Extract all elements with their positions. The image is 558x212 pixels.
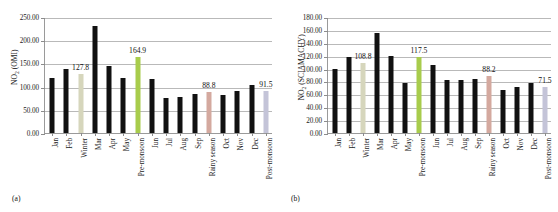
bar-group[interactable]: 88.8Rainy season [202, 18, 216, 133]
bar[interactable] [50, 78, 55, 133]
bar-group[interactable]: May [116, 18, 130, 133]
bar-group[interactable]: Oct [496, 18, 510, 133]
x-axis-tick [266, 133, 267, 136]
bar[interactable] [431, 65, 436, 133]
bar[interactable] [92, 26, 97, 133]
bar[interactable] [121, 78, 126, 133]
y-axis-tick-label: 150.00 [20, 60, 39, 68]
bar-group[interactable]: Apr [384, 18, 398, 133]
bar[interactable] [375, 33, 380, 133]
bar[interactable] [178, 97, 183, 133]
bar[interactable] [473, 79, 478, 133]
bar-group[interactable]: Jul [159, 18, 173, 133]
x-axis-tick-label: Rainy season [489, 138, 497, 176]
bar[interactable] [501, 90, 506, 133]
bar-group[interactable]: Aug [454, 18, 468, 133]
x-axis-tick [433, 133, 434, 136]
y-axis-tick-label: 0.00 [27, 130, 39, 138]
bar[interactable] [78, 74, 83, 133]
bar[interactable] [347, 57, 352, 133]
bar-group[interactable]: Jun [426, 18, 440, 133]
bar[interactable] [487, 76, 492, 133]
x-axis-tick [531, 133, 532, 136]
bar[interactable] [445, 80, 450, 133]
bar-group[interactable]: 88.2Rainy season [482, 18, 496, 133]
bar-group[interactable]: Jan [328, 18, 342, 133]
x-axis-tick [52, 133, 53, 136]
x-axis-tick-label: Winter [363, 138, 371, 158]
bar[interactable] [389, 56, 394, 133]
bar-group[interactable]: 71.5Post-monsoon [538, 18, 552, 133]
bar-group[interactable]: 164.9Pre-monsoon [131, 18, 145, 133]
x-axis-tick [349, 133, 350, 136]
bar-group[interactable]: 117.5Pre-monsoon [412, 18, 426, 133]
bar[interactable] [135, 57, 140, 134]
bar[interactable] [107, 66, 112, 133]
x-axis-tick [419, 133, 420, 136]
x-axis-tick [66, 133, 67, 136]
panel-caption-b: (b) [291, 194, 300, 203]
bar[interactable] [417, 57, 422, 133]
x-axis-tick [166, 133, 167, 136]
bar[interactable] [263, 91, 268, 133]
bar-group[interactable]: Nov [510, 18, 524, 133]
bar-group[interactable]: Jun [145, 18, 159, 133]
chart-panel-a: 0.0050.00100.00150.00200.00250.00 JanFeb… [0, 0, 279, 212]
bar[interactable] [192, 94, 197, 133]
x-axis-tick [461, 133, 462, 136]
bar[interactable] [149, 79, 154, 133]
bar-group[interactable]: 108.8Winter [356, 18, 370, 133]
y-axis-tick-label: 60.00 [306, 91, 322, 99]
y-axis-tick-label: 250.00 [20, 14, 39, 22]
bar[interactable] [164, 98, 169, 133]
y-axis-tick-label: 20.00 [306, 117, 322, 125]
bar[interactable] [235, 91, 240, 133]
bar-group[interactable]: Dec [524, 18, 538, 133]
bar-group[interactable]: Jan [45, 18, 59, 133]
bar-value-label: 117.5 [411, 46, 428, 55]
bar-group[interactable]: Jul [440, 18, 454, 133]
bar[interactable] [333, 69, 338, 133]
x-axis-tick-label: Post-monsoon [266, 138, 274, 179]
bar[interactable] [206, 92, 211, 133]
bar-group[interactable]: Feb [342, 18, 356, 133]
plot-area-a: 0.0050.00100.00150.00200.00250.00 JanFeb… [44, 18, 272, 134]
bar-group[interactable]: Apr [102, 18, 116, 133]
x-axis-tick [545, 133, 546, 136]
x-axis-tick-label: Nov [517, 138, 525, 150]
bar-group[interactable]: Aug [173, 18, 187, 133]
bar[interactable] [403, 83, 408, 133]
bars-b: JanFeb108.8WinterMarAprMay117.5Pre-monso… [328, 18, 551, 133]
x-axis-tick-label: Sep [475, 138, 483, 149]
y-axis-tick-label: 100.00 [20, 84, 39, 92]
bar[interactable] [543, 87, 548, 133]
bar-group[interactable]: 127.8Winter [74, 18, 88, 133]
x-axis-tick [109, 133, 110, 136]
bar[interactable] [249, 85, 254, 133]
x-axis-tick [405, 133, 406, 136]
bar-group[interactable]: Sep [188, 18, 202, 133]
x-axis-tick [335, 133, 336, 136]
x-axis-tick [195, 133, 196, 136]
bar-group[interactable]: Oct [216, 18, 230, 133]
y-axis-tick-label: 0.00 [310, 130, 322, 138]
bar[interactable] [515, 87, 520, 133]
bar-group[interactable]: Feb [59, 18, 73, 133]
x-axis-tick-label: Mar [377, 138, 385, 150]
bar-group[interactable]: Sep [468, 18, 482, 133]
bar[interactable] [529, 83, 534, 133]
bar[interactable] [64, 69, 69, 133]
bar-group[interactable]: Mar [88, 18, 102, 133]
bar[interactable] [221, 95, 226, 133]
x-axis-tick-label: Post-monsoon [545, 138, 553, 179]
x-axis-tick [152, 133, 153, 136]
bar[interactable] [361, 63, 366, 133]
bar-group[interactable]: May [398, 18, 412, 133]
x-axis-tick [95, 133, 96, 136]
bar[interactable] [459, 80, 464, 133]
bar-group[interactable]: Mar [370, 18, 384, 133]
bar-group[interactable]: Nov [230, 18, 244, 133]
bar-group[interactable]: Dec [245, 18, 259, 133]
bar-group[interactable]: 91.5Post-monsoon [259, 18, 273, 133]
x-axis-tick [223, 133, 224, 136]
